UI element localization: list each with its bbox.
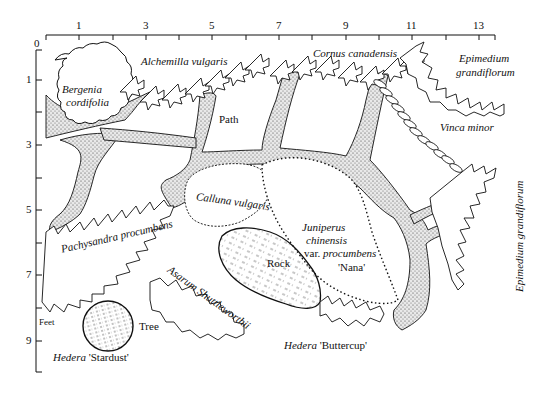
label-var-procumbens: var. procumbens (304, 248, 376, 259)
label-nana: 'Nana' (338, 262, 365, 273)
top-ruler (46, 35, 495, 40)
label-chinensis: chinensis (306, 235, 347, 246)
x-tick-13: 13 (473, 20, 484, 31)
label-vinca-minor: Vinca minor (440, 122, 494, 133)
y-tick-5: 5 (26, 204, 32, 215)
label-var: var. (304, 247, 323, 259)
x-tick-1: 1 (76, 20, 82, 31)
label-hedera-buttercup: Hedera 'Buttercup' (284, 340, 367, 351)
x-tick-7: 7 (276, 20, 282, 31)
x-tick-5: 5 (209, 20, 215, 31)
label-bergenia: Bergenia (62, 84, 102, 95)
label-alchemilla-vulgaris: Alchemilla vulgaris (141, 56, 227, 67)
epimedium-right-border (430, 164, 496, 290)
y-tick-3: 3 (26, 139, 32, 150)
label-buttercup: 'Buttercup' (317, 339, 367, 351)
label-path: Path (219, 114, 239, 125)
label-epimedium-top-1: Epimedium (459, 53, 509, 64)
label-rock: Rock (267, 258, 290, 269)
label-cordifolia: cordifolia (66, 97, 109, 108)
label-epimedium-grandiflorum-right: Epimedium grandiflorum (514, 180, 525, 292)
label-hedera-2: Hedera (284, 339, 317, 351)
x-tick-0: 0 (34, 38, 40, 49)
label-tree: Tree (139, 321, 159, 332)
x-tick-3: 3 (143, 20, 149, 31)
label-stardust: 'Stardust' (86, 351, 129, 363)
y-tick-7: 7 (26, 269, 32, 280)
label-hedera-1: Hedera (53, 351, 86, 363)
label-epimedium-top-2: grandiflorum (456, 67, 515, 78)
label-procumbens: procumbens (323, 247, 376, 259)
y-tick-9: 9 (26, 335, 32, 346)
tree-symbol (83, 301, 133, 351)
x-tick-9: 9 (343, 20, 349, 31)
y-tick-1: 1 (26, 74, 32, 85)
label-juniperus: Juniperus (302, 222, 345, 233)
x-tick-11: 11 (406, 20, 417, 31)
label-cornus-canadensis: Cornus canadensis (313, 48, 397, 59)
label-hedera-stardust: Hedera 'Stardust' (53, 352, 129, 363)
units-label: Feet (39, 318, 55, 327)
